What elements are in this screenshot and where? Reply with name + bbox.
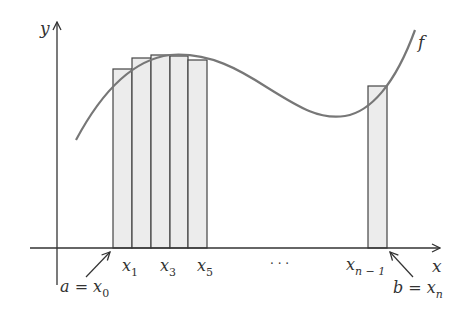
rectangles xyxy=(113,55,387,248)
label-a: a = x0 xyxy=(60,277,109,300)
riemann-sum-diagram: y x f x1 x3 x5 · · · xn − 1 a = x0 b = x… xyxy=(0,0,467,320)
label-x-n-minus-1: xn − 1 xyxy=(346,255,385,278)
y-axis-label: y xyxy=(39,18,50,38)
bar-2 xyxy=(132,58,151,248)
bar-3 xyxy=(151,55,170,248)
label-x1: x1 xyxy=(122,256,138,279)
bar-1 xyxy=(113,69,132,248)
label-x3: x3 xyxy=(160,256,176,279)
label-b: b = xn xyxy=(393,278,443,301)
arrow-b xyxy=(390,252,413,277)
label-x5: x5 xyxy=(197,256,213,279)
ellipsis: · · · xyxy=(270,257,289,271)
function-label: f xyxy=(416,32,427,52)
bar-5 xyxy=(188,60,207,248)
bar-n xyxy=(368,86,387,248)
x-axis-label: x xyxy=(432,256,442,276)
bar-4 xyxy=(170,56,188,248)
arrow-a xyxy=(86,252,110,277)
